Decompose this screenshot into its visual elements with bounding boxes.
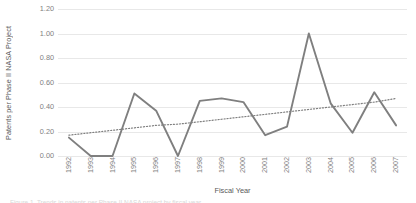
- figure-caption: Figure 1. Trends in patents per Phase II…: [10, 199, 410, 203]
- x-tick-label: 2006: [369, 157, 379, 173]
- x-axis-tick-labels: 1992199319941995199619971998199920002001…: [58, 157, 407, 187]
- series-svg: [58, 9, 407, 156]
- chart-container: Patents per Phase II NASA Project 0.000.…: [0, 0, 416, 203]
- y-axis-tick-labels: 0.000.200.400.600.801.001.20: [22, 0, 54, 165]
- x-tick-label: 2003: [304, 157, 314, 173]
- y-tick-label: 1.00: [24, 30, 54, 37]
- trendline: [69, 98, 396, 135]
- x-tick-label: 1999: [217, 157, 227, 173]
- data-line: [69, 34, 396, 157]
- x-tick-label: 2001: [260, 157, 270, 173]
- x-tick-label: 2007: [391, 157, 401, 173]
- x-tick-label: 1994: [108, 157, 118, 173]
- x-tick-label: 2000: [238, 157, 248, 173]
- y-tick-label: 0.60: [24, 79, 54, 86]
- y-tick-label: 0.40: [24, 103, 54, 110]
- x-tick-label: 1995: [129, 157, 139, 173]
- y-axis-title: Patents per Phase II NASA Project: [0, 0, 16, 165]
- x-tick-label: 1996: [151, 157, 161, 173]
- x-tick-label: 2005: [347, 157, 357, 173]
- x-tick-label: 1992: [64, 157, 74, 173]
- x-tick-label: 1997: [173, 157, 183, 173]
- y-tick-label: 0.00: [24, 152, 54, 159]
- y-axis-title-label: Patents per Phase II NASA Project: [4, 26, 13, 140]
- x-axis-title: Fiscal Year: [58, 186, 407, 195]
- x-tick-label: 2002: [282, 157, 292, 173]
- y-tick-label: 0.80: [24, 54, 54, 61]
- x-tick-label: 1998: [195, 157, 205, 173]
- y-tick-label: 0.20: [24, 128, 54, 135]
- x-tick-label: 2004: [326, 157, 336, 173]
- y-tick-label: 1.20: [24, 5, 54, 12]
- plot-area: [58, 9, 407, 156]
- x-tick-label: 1993: [86, 157, 96, 173]
